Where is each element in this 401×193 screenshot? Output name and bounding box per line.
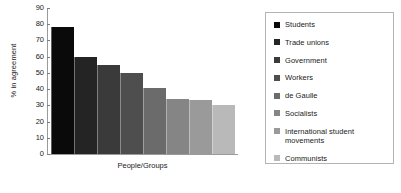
- y-axis-tick-labels: 9080706050403020100: [20, 8, 44, 154]
- y-axis-tick-mark: [47, 89, 50, 90]
- legend-label: Workers: [285, 73, 313, 82]
- legend-entry: Government: [274, 56, 387, 65]
- bar: [189, 100, 212, 154]
- x-axis-title: People/Groups: [47, 161, 238, 170]
- plot-area: % in agreement 9080706050403020100 Peopl…: [0, 0, 258, 193]
- y-axis-tick-mark: [47, 8, 50, 9]
- bar-chart-figure: % in agreement 9080706050403020100 Peopl…: [0, 0, 401, 193]
- y-axis-tick-mark: [47, 122, 50, 123]
- legend-entry: Workers: [274, 73, 387, 82]
- bar: [97, 65, 120, 154]
- legend-label: de Gaulle: [285, 91, 318, 100]
- y-axis-tick-mark: [47, 105, 50, 106]
- y-axis-tick-mark: [47, 154, 50, 155]
- bar-series: [51, 8, 235, 154]
- legend-swatch-icon: [274, 128, 280, 134]
- legend-swatch-icon: [274, 93, 280, 99]
- legend-label: Socialists: [285, 109, 317, 118]
- y-axis-title: % in agreement: [9, 11, 18, 131]
- y-axis-tick-mark: [47, 73, 50, 74]
- legend-swatch-icon: [274, 22, 280, 28]
- legend-entry: Trade unions: [274, 38, 387, 47]
- y-axis-tick-mark: [47, 138, 50, 139]
- bar: [143, 88, 166, 155]
- legend-swatch-icon: [274, 155, 280, 161]
- bar: [74, 57, 97, 154]
- y-axis-line: [47, 8, 48, 155]
- legend-label: Students: [285, 20, 315, 29]
- legend-label: International student movements: [285, 127, 387, 145]
- legend-swatch-icon: [274, 75, 280, 81]
- legend-entry: Communists: [274, 154, 387, 163]
- legend-label: Communists: [285, 154, 327, 163]
- y-axis-tick-mark: [47, 24, 50, 25]
- legend-swatch-icon: [274, 57, 280, 63]
- y-axis-tick-mark: [47, 40, 50, 41]
- x-axis-line: [47, 154, 238, 155]
- legend-label: Trade unions: [285, 38, 329, 47]
- legend-swatch-icon: [274, 110, 280, 116]
- legend-swatch-icon: [274, 39, 280, 45]
- bar: [212, 105, 235, 154]
- legend-entry: International student movements: [274, 127, 387, 145]
- legend-entry: Socialists: [274, 109, 387, 118]
- bar: [120, 73, 143, 154]
- legend-label: Government: [285, 56, 327, 65]
- legend-entry: de Gaulle: [274, 91, 387, 100]
- bar: [51, 27, 74, 154]
- legend-entry: Students: [274, 20, 387, 29]
- y-axis-tick-mark: [47, 57, 50, 58]
- bar: [166, 99, 189, 154]
- chart-legend: StudentsTrade unionsGovernmentWorkersde …: [265, 12, 394, 164]
